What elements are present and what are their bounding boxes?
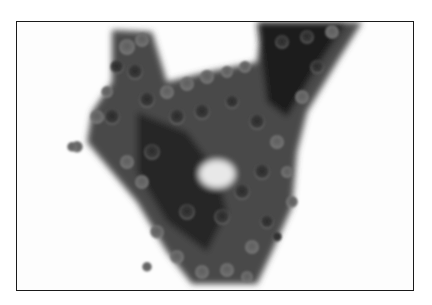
- micrograph-frame: [16, 21, 414, 291]
- cell-cluster-image: [17, 22, 414, 291]
